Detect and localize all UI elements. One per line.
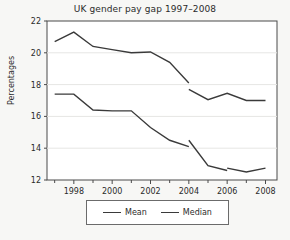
legend-line-icon [103,212,121,213]
legend-item-mean: Mean [103,208,147,217]
svg-text:12: 12 [31,176,41,185]
svg-text:20: 20 [31,49,41,58]
chart-legend: Mean Median [86,200,229,225]
legend-label: Mean [125,208,147,217]
svg-text:22: 22 [31,17,41,26]
svg-text:14: 14 [31,144,41,153]
legend-label: Median [183,208,212,217]
svg-text:16: 16 [31,112,41,121]
svg-text:18: 18 [31,81,41,90]
svg-text:2006: 2006 [217,187,237,196]
svg-text:2002: 2002 [140,187,160,196]
y-axis-ticks: 121416182022 [31,17,47,185]
chart-figure: UK gender pay gap 1997–2008 Percentages … [0,0,290,240]
svg-text:2004: 2004 [179,187,199,196]
svg-text:2000: 2000 [102,187,122,196]
svg-text:2008: 2008 [255,187,275,196]
svg-text:1998: 1998 [64,187,84,196]
legend-line-icon [161,212,179,213]
x-axis-ticks: 199820002002200420062008 [55,180,276,196]
legend-item-median: Median [161,208,212,217]
